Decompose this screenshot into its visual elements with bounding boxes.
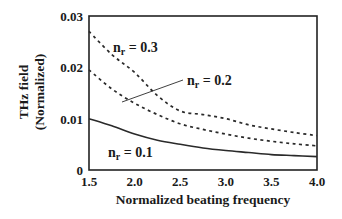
x-axis-title: Normalized beating frequency (116, 192, 291, 207)
x-tick-label: 1.5 (81, 174, 98, 189)
series-annotation: nr = 0.3 (113, 40, 158, 57)
leader-lines (122, 80, 183, 102)
leader-line (122, 80, 183, 102)
y-tick-labels: 00.010.020.03 (60, 9, 83, 178)
series-annotation: nr = 0.2 (187, 73, 232, 90)
x-tick-label: 2.0 (126, 174, 142, 189)
annotations: nr = 0.3nr = 0.2nr = 0.1 (108, 40, 232, 162)
chart: 00.010.020.03 1.52.02.53.03.54.0 nr = 0.… (0, 0, 342, 219)
x-tick-label: 4.0 (309, 174, 325, 189)
x-tick-label: 3.5 (263, 174, 280, 189)
y-tick-label: 0.03 (60, 9, 83, 24)
y-axis-title-line-2: (Normalized) (32, 54, 47, 130)
y-tick-label: 0.01 (60, 112, 83, 127)
x-tick-labels: 1.52.02.53.03.54.0 (81, 174, 325, 189)
series-annotation: nr = 0.1 (108, 145, 153, 162)
x-tick-label: 2.5 (172, 174, 189, 189)
x-tick-label: 3.0 (218, 174, 234, 189)
y-axis-title: THz field (Normalized) (16, 54, 47, 130)
y-tick-label: 0.02 (60, 60, 83, 75)
y-axis-title-line-1: THz field (16, 64, 31, 119)
